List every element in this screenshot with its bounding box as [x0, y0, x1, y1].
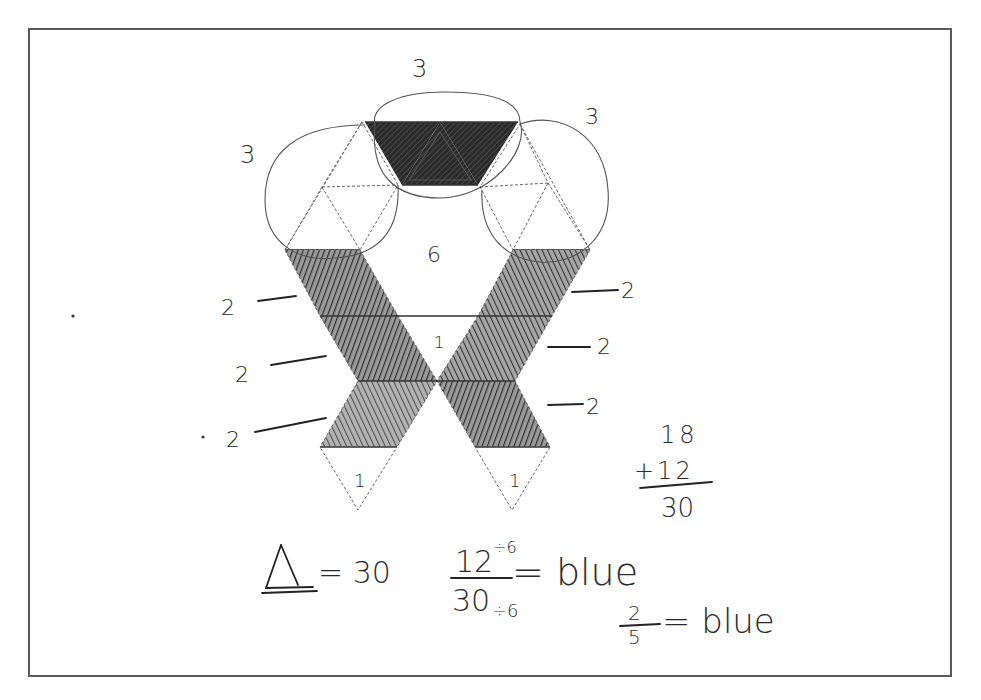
fraction-denominator: 30 [452, 583, 490, 618]
leader-lines [255, 290, 618, 432]
left-band [285, 250, 437, 447]
sum-total: 30 [661, 493, 694, 523]
fraction-result: = blue [512, 550, 638, 594]
label-left-strip-2: 2 [235, 362, 249, 387]
right-band [437, 250, 590, 447]
sum-addend-1: 18 [660, 421, 699, 449]
simplified-denominator: 5 [628, 625, 641, 649]
label-left-strip-3: 2 [226, 427, 240, 452]
denominator-divisor: ÷6 [492, 600, 519, 621]
label-left-group: 3 [240, 141, 255, 169]
triangle-equals: = 30 [318, 555, 391, 590]
label-right-group: 3 [585, 104, 599, 129]
label-right-bottom-triangle: 1 [509, 470, 520, 491]
label-left-strip-1: 2 [221, 295, 235, 320]
stray-mark [71, 314, 74, 317]
label-top-group: 3 [412, 55, 427, 83]
label-left-bottom-triangle: 1 [354, 470, 365, 491]
stray-mark [201, 435, 204, 438]
label-crossing: 1 [434, 333, 444, 352]
triangle-symbol [262, 545, 317, 593]
top-shaded-triangles [365, 122, 518, 185]
label-center: 6 [427, 242, 441, 267]
label-right-strip-1: 2 [621, 278, 635, 303]
sum-addend-2: +12 [634, 457, 694, 485]
simplified-result: = blue [662, 601, 775, 641]
fraction-numerator: 12 [455, 544, 493, 579]
label-right-strip-2: 2 [597, 334, 611, 359]
label-right-strip-3: 2 [586, 394, 600, 419]
hexagram-net-sketch: 3 3 3 6 1 1 1 2 2 2 2 2 2 18 +12 30 = 30… [0, 0, 981, 700]
left-group-loop [265, 125, 398, 259]
simplified-numerator: 2 [628, 601, 641, 625]
